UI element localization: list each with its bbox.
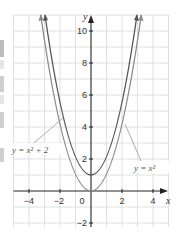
x-tick-label: −4 bbox=[24, 196, 34, 206]
x-tick-label: 0 bbox=[79, 196, 84, 206]
y-axis-label: y bbox=[82, 11, 88, 22]
x-tick-label: 2 bbox=[119, 196, 124, 206]
parabola-chart: −4 −2 0 2 4 10 8 6 4 2 −2 x y y = x² + 2… bbox=[0, 0, 177, 252]
leader-line bbox=[125, 124, 141, 161]
y-tick-label: 10 bbox=[77, 26, 87, 36]
x-axis-arrow-icon bbox=[160, 188, 168, 194]
x-axis-label: x bbox=[165, 195, 171, 206]
y-tick-label: 6 bbox=[82, 90, 87, 100]
x-tick-label: 4 bbox=[150, 196, 155, 206]
curve-label-base: y = x² bbox=[133, 163, 156, 173]
y-tick-label: −2 bbox=[77, 218, 87, 228]
x-tick-label: −2 bbox=[54, 196, 64, 206]
axes bbox=[14, 20, 165, 227]
y-axis-arrow-icon bbox=[88, 15, 94, 23]
y-tick-label: 4 bbox=[82, 122, 87, 132]
curve-label-shifted: y = x² + 2 bbox=[11, 145, 49, 155]
y-tick-label: 8 bbox=[82, 58, 87, 68]
y-tick-label: 2 bbox=[82, 154, 87, 164]
